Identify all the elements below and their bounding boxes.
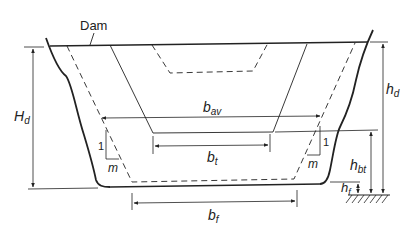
right-slope-run-label: m [308,157,318,171]
left-slope-triangle [106,130,119,159]
bt-label: bt [207,149,219,167]
top-channel-solid [110,44,307,133]
left-slope-rise-label: 1 [98,140,104,152]
hbt-reference-line [275,130,378,132]
hf-label: hf [341,180,352,197]
Hd-bottom-tick [28,188,98,189]
bav-label: bav [203,99,222,117]
Hd-label: Hd [14,108,30,126]
channel-cross-section-diagram: Dam Hd hd bav bt bf hbt hf 1 m 1 m [0,0,410,232]
right-slope-rise-label: 1 [323,136,329,148]
dam-water-surface-line [50,42,368,46]
left-bank-curve [46,38,110,187]
right-bank-curve [320,30,373,184]
right-slope-triangle [307,126,320,155]
bf-dimension-arrow [134,201,295,203]
left-slope-run-label: m [108,161,118,175]
bt-dimension-arrow [155,145,268,146]
ground-datum-hatch [346,195,390,203]
hbt-label: hbt [350,157,367,175]
dam-label: Dam [80,18,107,33]
hd-label: hd [386,81,400,99]
channel-bottom-line [110,184,320,187]
bf-label: bf [208,207,220,225]
dam-leader-line [90,33,94,45]
small-channel-dashed [152,43,268,73]
